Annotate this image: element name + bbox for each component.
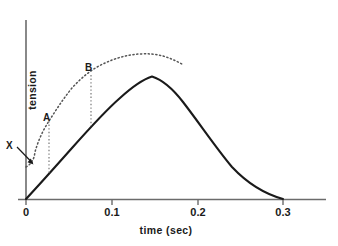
x-axis-ticks (26, 200, 283, 206)
x-tick-label-0: 0 (23, 206, 29, 218)
x-tick-label-1: 0.1 (104, 206, 119, 218)
chart-figure: 0 0.1 0.2 0.3 time (sec) tension X A B (0, 0, 338, 246)
x-tick-label-3: 0.3 (275, 206, 290, 218)
annotation-label-x: X (6, 140, 13, 151)
x-axis-title: time (sec) (139, 224, 192, 236)
solid-twitch-curve (26, 77, 283, 200)
x-tick-label-2: 0.2 (190, 206, 205, 218)
annotation-label-b: B (85, 62, 92, 73)
annotation-label-a: A (43, 112, 50, 123)
y-axis-title: tension (26, 60, 38, 120)
